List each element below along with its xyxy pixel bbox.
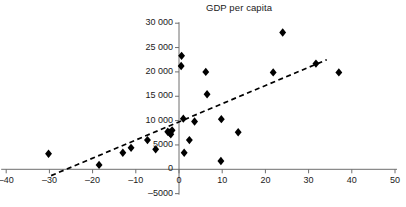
data-point-marker	[270, 68, 277, 76]
data-point-marker	[218, 115, 225, 123]
x-axis-tick-label: 50	[375, 175, 406, 185]
data-point-marker	[191, 117, 198, 125]
data-point-marker	[202, 68, 209, 76]
trendline-layer	[51, 60, 327, 176]
x-axis-tick-label: 20	[245, 175, 285, 185]
y-axis-tick-label: 0	[103, 163, 173, 173]
x-axis-tick-label: 30	[289, 175, 329, 185]
data-points-layer	[45, 28, 342, 169]
data-point-marker	[217, 157, 224, 165]
axes-layer	[1, 22, 397, 194]
gdp-per-capita-scatter-chart: GDP per capita –40–30–20–1001020304050–5…	[0, 0, 406, 207]
data-point-marker	[96, 161, 103, 169]
data-point-marker	[335, 68, 342, 76]
y-axis-tick-label: –5000	[103, 188, 173, 198]
x-axis-tick-label: 40	[332, 175, 372, 185]
data-point-marker	[45, 150, 52, 158]
x-axis-tick-label: 0	[159, 175, 199, 185]
x-axis-tick-label: 10	[202, 175, 242, 185]
data-point-marker	[279, 28, 286, 36]
x-axis-tick-label: –30	[29, 175, 69, 185]
x-axis-tick-label: –10	[116, 175, 156, 185]
data-point-marker	[235, 128, 242, 136]
data-point-marker	[119, 149, 126, 157]
y-axis-tick-label: 20 000	[103, 66, 173, 76]
x-axis-tick-label: –40	[0, 175, 26, 185]
x-axis-tick-label: –20	[73, 175, 113, 185]
y-axis-tick-label: 30 000	[103, 17, 173, 27]
y-axis-tick-label: 5000	[103, 139, 173, 149]
data-point-marker	[204, 90, 211, 98]
y-axis-tick-label: 10 000	[103, 115, 173, 125]
trendline	[51, 60, 327, 176]
y-axis-tick-label: 15 000	[103, 90, 173, 100]
y-axis-tick-label: 25 000	[103, 42, 173, 52]
data-point-marker	[181, 149, 188, 157]
data-point-marker	[313, 59, 320, 67]
data-point-marker	[186, 136, 193, 144]
